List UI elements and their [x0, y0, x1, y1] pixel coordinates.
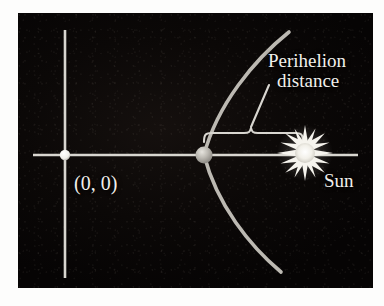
- origin-dot: [60, 150, 70, 160]
- comet-dot: [196, 147, 213, 164]
- perihelion-distance-label: Perihelion distance: [268, 51, 346, 91]
- perihelion-label-line2: distance: [277, 71, 346, 91]
- origin-coordinate-label: (0, 0): [74, 173, 117, 194]
- perihelion-leader-line: [251, 85, 269, 127]
- perihelion-label-line1: Perihelion: [268, 50, 346, 71]
- diagram-panel: Perihelion distance (0, 0) Sun: [18, 13, 373, 288]
- figure-root: Perihelion distance (0, 0) Sun: [0, 0, 384, 306]
- sun-label: Sun: [324, 171, 354, 191]
